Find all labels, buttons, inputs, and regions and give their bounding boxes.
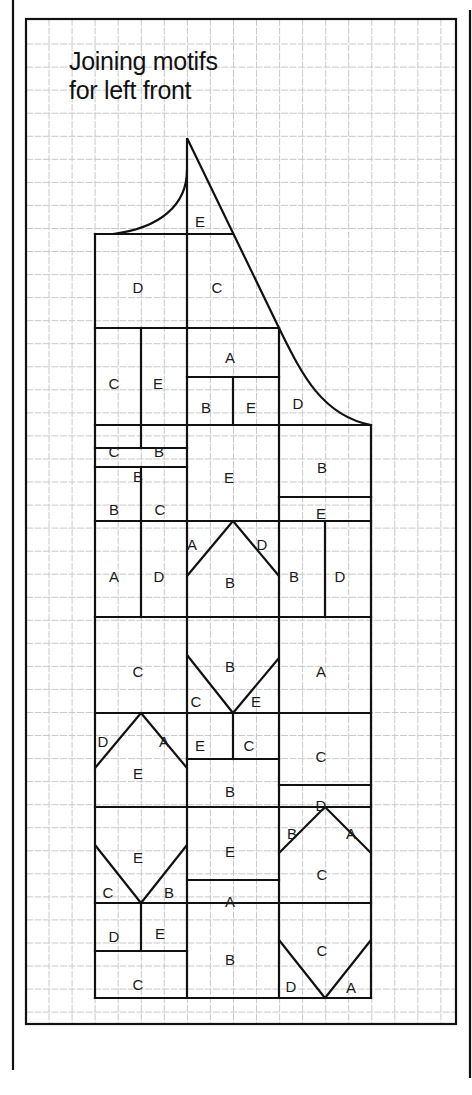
motif-label: B xyxy=(287,825,297,842)
motif-label: B xyxy=(317,459,327,476)
motif-label: C xyxy=(316,748,327,765)
motif-label: D xyxy=(257,536,268,553)
motif-label: E xyxy=(224,469,234,486)
motif-label: A xyxy=(225,893,235,910)
motif-label: E xyxy=(153,375,163,392)
motif-label: C xyxy=(212,279,223,296)
motif-label: C xyxy=(133,976,144,993)
motif-label: D xyxy=(133,279,144,296)
motif-label: C xyxy=(109,375,120,392)
motif-label: C xyxy=(244,737,255,754)
motif-label: B xyxy=(289,568,299,585)
motif-label: B xyxy=(201,399,211,416)
motif-label: B xyxy=(225,658,235,675)
motif-label: E xyxy=(195,213,205,230)
motif-label: A xyxy=(109,568,119,585)
motif-label: D xyxy=(316,797,327,814)
motif-label: C xyxy=(317,866,328,883)
motif-label: B xyxy=(225,951,235,968)
motif-label: D xyxy=(154,568,165,585)
neckline-curve xyxy=(113,170,187,234)
graph-paper-diagram: EDCCEABEDCBBBCEBEADBADBDCBACEDAEECBCDEEB… xyxy=(0,0,472,1095)
motif-labels: EDCCEABEDCBBBCEBEADBADBDCBACEDAEECBCDEEB… xyxy=(98,213,356,996)
motif-label: A xyxy=(346,825,356,842)
motif-label: B xyxy=(225,783,235,800)
motif-label: A xyxy=(225,349,235,366)
motif-label: E xyxy=(251,693,261,710)
motif-label: C xyxy=(133,663,144,680)
motif-label: A xyxy=(187,536,197,553)
motif-label: A xyxy=(159,733,169,750)
title-line-1: Joining motifs xyxy=(69,47,218,75)
motif-label: B xyxy=(154,443,164,460)
motif-label: E xyxy=(316,505,326,522)
diagram-canvas: EDCCEABEDCBBBCEBEADBADBDCBACEDAEECBCDEEB… xyxy=(0,0,472,1095)
motif-label: E xyxy=(133,849,143,866)
diagram-title: Joining motifs for left front xyxy=(69,47,218,105)
motif-label: C xyxy=(317,942,328,959)
motif-label: C xyxy=(103,884,114,901)
motif-label: E xyxy=(225,843,235,860)
motif-label: A xyxy=(316,663,326,680)
motif-label: C xyxy=(109,443,120,460)
motif-label: B xyxy=(133,468,143,485)
motif-label: D xyxy=(293,395,304,412)
motif-label: B xyxy=(109,501,119,518)
motif-label: E xyxy=(155,925,165,942)
motif-label: E xyxy=(133,765,143,782)
garment-curves xyxy=(113,138,371,425)
motif-label: B xyxy=(164,884,174,901)
motif-label: D xyxy=(286,978,297,995)
motif-label: C xyxy=(155,501,166,518)
motif-label: B xyxy=(225,574,235,591)
motif-label: E xyxy=(195,737,205,754)
motif-label: C xyxy=(191,693,202,710)
motif-label: E xyxy=(246,399,256,416)
motif-label: A xyxy=(346,979,356,996)
motif-label: D xyxy=(98,733,109,750)
title-line-2: for left front xyxy=(69,76,191,104)
page-frame xyxy=(13,0,470,1078)
motif-label: D xyxy=(335,568,346,585)
motif-label: D xyxy=(109,928,120,945)
